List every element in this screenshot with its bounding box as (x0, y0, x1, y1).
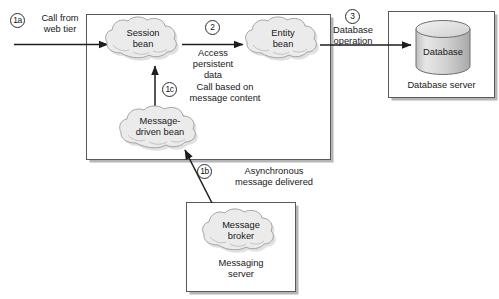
step-2-caption: Access persistent data (182, 48, 244, 81)
step-1c-caption: Call based on message content (180, 82, 270, 104)
database-server-label: Database server (388, 80, 495, 91)
step-1b-caption: Asynchronous message delivered (222, 166, 326, 188)
step-1a-caption: Call from web tier (27, 13, 93, 35)
step-2-badge: 2 (205, 20, 220, 35)
entity-bean-cloud: Entity bean (243, 17, 323, 67)
database-label: Database (413, 47, 473, 57)
session-bean-cloud: Session bean (103, 17, 183, 67)
diagram-canvas: Database server Messaging server (0, 0, 499, 299)
message-broker-cloud: Message broker (200, 210, 282, 258)
step-3-badge: 3 (345, 9, 360, 24)
step-1c-badge: 1c (162, 82, 177, 97)
step-3-caption: Database operation (327, 25, 379, 47)
message-driven-bean-cloud: Message- driven bean (117, 106, 203, 156)
database-cylinder: Database (413, 20, 473, 76)
step-1a-badge: 1a (10, 13, 25, 28)
messaging-server-label: Messaging server (186, 258, 296, 280)
step-1b-badge: 1b (197, 164, 212, 179)
